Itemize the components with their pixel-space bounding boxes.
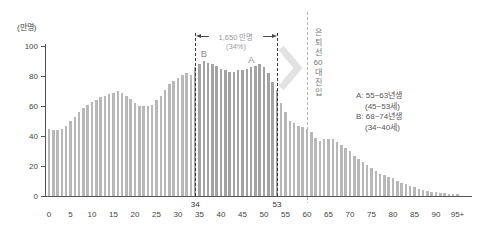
retirement-text-char: 은 — [315, 28, 322, 37]
bar-age-2 — [56, 130, 59, 196]
bar-age-65 — [327, 139, 330, 196]
bar-age-7 — [78, 112, 81, 196]
bar-age-0 — [48, 129, 51, 197]
bar-age-82 — [400, 183, 403, 197]
y-tick-label: 80 — [16, 72, 38, 81]
x-tick-label: 85 — [405, 210, 425, 219]
x-tick-label: 70 — [340, 210, 360, 219]
x-tick-label: 65 — [319, 210, 339, 219]
x-tick-label: 75 — [362, 210, 382, 219]
x-tick-label: 80 — [383, 210, 403, 219]
bar-age-87 — [422, 190, 425, 196]
bar-age-19 — [129, 99, 132, 197]
bar-age-70 — [349, 151, 352, 196]
bar-age-66 — [332, 139, 335, 196]
bar-age-42 — [228, 72, 231, 197]
bar-age-89 — [430, 192, 433, 197]
bar-age-58 — [297, 126, 300, 197]
bar-age-47 — [250, 67, 253, 196]
bar-age-51 — [267, 73, 270, 196]
bar-age-12 — [99, 97, 102, 196]
cohort-label-A: A — [246, 54, 256, 65]
bar-age-10 — [91, 102, 94, 197]
x-tick-label: 35 — [190, 210, 210, 219]
bar-age-33 — [190, 75, 193, 197]
bar-age-36 — [203, 61, 206, 196]
bar-age-18 — [125, 96, 128, 197]
bar-age-91 — [439, 193, 442, 196]
bar-age-15 — [112, 93, 115, 197]
span-annotation-text: 1,650 만명 — [210, 31, 262, 42]
bar-age-62 — [314, 138, 317, 197]
bar-age-56 — [289, 121, 292, 196]
bar-age-74 — [366, 165, 369, 197]
y-tickmark — [41, 76, 45, 77]
bar-age-76 — [375, 171, 378, 197]
y-tick-label: 60 — [16, 102, 38, 111]
bar-age-85 — [413, 187, 416, 196]
bar-age-44 — [237, 70, 240, 196]
bracket-line-age-34 — [195, 33, 196, 196]
bar-age-57 — [293, 123, 296, 197]
x-tick-label: 15 — [104, 210, 124, 219]
bar-age-75 — [370, 168, 373, 197]
bar-age-39 — [215, 66, 218, 197]
bar-age-21 — [138, 106, 141, 196]
x-tick-label: 45 — [233, 210, 253, 219]
bar-age-63 — [319, 141, 322, 197]
bar-age-80 — [392, 178, 395, 196]
bar-age-23 — [147, 106, 150, 196]
bar-age-88 — [426, 191, 429, 196]
bar-age-48 — [254, 66, 257, 197]
bar-age-13 — [104, 96, 107, 197]
bar-age-8 — [82, 108, 85, 197]
bar-age-49 — [258, 64, 261, 196]
bar-age-61 — [310, 132, 313, 197]
x-tick-label: 10 — [82, 210, 102, 219]
bar-age-16 — [117, 91, 120, 196]
bar-age-25 — [155, 100, 158, 196]
bar-age-55 — [284, 112, 287, 196]
bar-age-9 — [86, 105, 89, 197]
legend-line-a-ages: (45~53세) — [356, 102, 402, 113]
y-tick-label: 100 — [16, 42, 38, 51]
bar-age-30 — [177, 78, 180, 197]
retirement-text-char: 선 — [315, 48, 322, 57]
y-axis-unit-label: (만명) — [17, 21, 36, 32]
cohort-legend: A: 55~63년생 (45~53세) B: 68~74년생 (34~40세) — [356, 91, 402, 133]
y-tick-label: 40 — [16, 132, 38, 141]
x-tick-label: 0 — [39, 210, 59, 219]
bar-age-92 — [443, 193, 446, 196]
y-tickmark — [41, 46, 45, 47]
y-tick-label: 0 — [16, 192, 38, 201]
bar-age-79 — [387, 177, 390, 197]
bar-age-59 — [301, 127, 304, 196]
bar-age-90 — [435, 192, 438, 196]
x-tick-label: 30 — [168, 210, 188, 219]
retirement-text-char: 60 — [314, 58, 323, 67]
bar-age-93 — [448, 194, 451, 196]
legend-line-a: A: 55~63년생 — [356, 91, 402, 102]
bar-age-26 — [160, 96, 163, 197]
bar-age-29 — [172, 81, 175, 197]
bar-age-86 — [418, 189, 421, 197]
bar-age-40 — [220, 69, 223, 197]
bar-age-77 — [379, 174, 382, 197]
bar-age-46 — [246, 69, 249, 197]
bar-age-27 — [164, 90, 167, 197]
bar-age-94 — [452, 194, 455, 196]
span-annotation-percentage: (34%) — [210, 42, 262, 51]
bar-age-73 — [362, 162, 365, 197]
retirement-text-char: 진 — [315, 78, 322, 87]
cohort-label-B: B — [199, 48, 209, 59]
bar-age-20 — [134, 103, 137, 196]
span-arrowhead-right-icon — [272, 34, 277, 38]
bar-age-71 — [353, 156, 356, 197]
bar-age-52 — [271, 82, 274, 196]
x-tick-label: 25 — [147, 210, 167, 219]
population-age-chart: (만명) 020406080100 0510152025303540455055… — [0, 0, 480, 238]
bar-age-69 — [344, 148, 347, 196]
bar-age-78 — [383, 175, 386, 196]
bar-age-28 — [168, 84, 171, 197]
bar-age-1 — [52, 130, 55, 196]
